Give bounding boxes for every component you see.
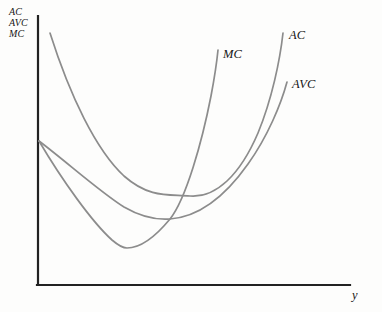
vertical-axis-label-stack: AC AVC MC	[9, 6, 37, 40]
x-axis-label: y	[352, 288, 358, 303]
cost-curves-figure: AC AVC MC MC AC AVC y	[0, 0, 382, 312]
curve-label-avc: AVC	[292, 77, 316, 92]
axis-label-ac: AC	[9, 6, 37, 17]
curve-label-ac: AC	[289, 28, 305, 43]
curve-ac	[50, 33, 283, 196]
axes-group	[37, 16, 350, 285]
curves-group	[39, 33, 287, 248]
plot-area	[0, 0, 382, 312]
curve-label-mc: MC	[223, 47, 242, 62]
axis-label-mc: MC	[9, 28, 37, 39]
axis-label-avc: AVC	[9, 17, 37, 28]
